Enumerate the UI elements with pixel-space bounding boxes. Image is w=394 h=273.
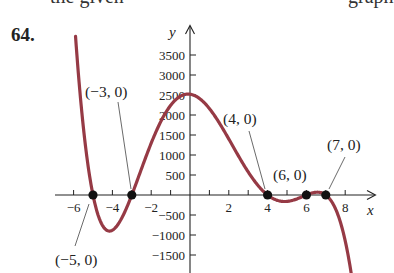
polynomial-graph-figure: the given graph 64. x y −6−4−22468350030… (0, 0, 394, 273)
zero-point (321, 190, 330, 199)
x-tick-label: 2 (226, 200, 233, 215)
leader-line-neg3 (118, 102, 131, 189)
y-tick-label: −1500 (152, 248, 185, 263)
x-axis-label: x (366, 202, 374, 218)
y-tick-label: 3000 (159, 68, 185, 83)
y-axis-label: y (167, 24, 176, 40)
x-tick-label: −4 (105, 200, 119, 215)
y-tick-label: 1500 (159, 128, 185, 143)
y-tick-label: −1000 (152, 228, 185, 243)
polynomial-curve (76, 36, 357, 273)
x-tick-label: −6 (67, 200, 81, 215)
zero-point (88, 190, 97, 199)
x-tick-label: −2 (144, 200, 158, 215)
y-tick-label: −500 (158, 208, 185, 223)
annotation-label-6: (6, 0) (273, 166, 307, 184)
annotation-label-7: (7, 0) (327, 136, 361, 154)
annotation-label-neg5: (−5, 0) (55, 251, 97, 269)
zero-point (302, 190, 311, 199)
x-tick-label: 6 (303, 200, 310, 215)
problem-number: 64. (11, 24, 35, 45)
y-tick-label: 1000 (159, 148, 185, 163)
annotation-label-neg3: (−3, 0) (85, 83, 127, 101)
y-tick-label: 3500 (159, 48, 185, 63)
annotation-labels: (−3, 0) (−5, 0) (4, 0) (6, 0) (7, 0) (55, 83, 361, 269)
leader-line-4 (249, 131, 265, 189)
zero-point (263, 190, 272, 199)
cropped-header-text-right: graph (348, 0, 394, 8)
x-tick-label: 8 (342, 200, 349, 215)
leader-line-7 (329, 157, 345, 189)
zero-point (127, 190, 136, 199)
y-tick-label: 500 (166, 168, 186, 183)
annotation-label-4: (4, 0) (223, 110, 257, 128)
cropped-header-text-left: the given (50, 0, 124, 8)
x-tick-label: 4 (264, 200, 271, 215)
